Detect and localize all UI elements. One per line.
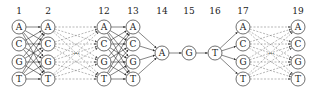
node-13-A: A: [126, 20, 140, 34]
edge: [138, 58, 156, 74]
ellipsis-marker: ⋯: [73, 49, 79, 56]
node-letter: A: [239, 22, 247, 32]
node-19-A: A: [291, 20, 305, 34]
node-letter: T: [240, 74, 246, 84]
node-letter: G: [294, 57, 301, 67]
column-label-15: 15: [183, 6, 195, 16]
node-letter: T: [16, 74, 22, 84]
node-1-C: C: [12, 37, 26, 51]
node-letter: C: [295, 39, 302, 49]
edge: [140, 46, 155, 51]
node-1-G: G: [12, 55, 26, 69]
node-2-G: G: [41, 55, 55, 69]
node-letter: A: [294, 22, 302, 32]
node-letter: T: [212, 48, 218, 58]
column-label-12: 12: [98, 6, 109, 16]
node-letter: A: [100, 22, 108, 32]
node-12-A: A: [97, 20, 111, 34]
node-letter: T: [101, 74, 107, 84]
node-17-G: G: [236, 55, 250, 69]
column-label-2: 2: [45, 6, 51, 16]
column-label-17: 17: [237, 6, 249, 16]
node-letter: G: [100, 57, 107, 67]
ellipsis-marker: ⋯: [268, 49, 274, 56]
column-label-14: 14: [156, 6, 168, 16]
node-letter: A: [44, 22, 52, 32]
node-2-C: C: [41, 37, 55, 51]
node-1-A: A: [12, 20, 26, 34]
node-19-G: G: [291, 55, 305, 69]
edge: [220, 32, 237, 48]
node-19-T: T: [291, 72, 305, 86]
edge: [140, 55, 155, 60]
node-15-G: G: [182, 46, 196, 60]
node-17-C: C: [236, 37, 250, 51]
node-letter: C: [45, 39, 52, 49]
node-17-A: A: [236, 20, 250, 34]
node-letter: T: [45, 74, 51, 84]
node-16-T: T: [208, 46, 222, 60]
node-letter: A: [129, 22, 137, 32]
node-letter: C: [130, 39, 137, 49]
node-letter: G: [239, 57, 246, 67]
node-letter: G: [15, 57, 22, 67]
node-letter: C: [240, 39, 247, 49]
node-letter: T: [130, 74, 136, 84]
node-14-A: A: [155, 46, 169, 60]
node-letter: A: [15, 22, 23, 32]
node-letter: A: [158, 48, 166, 58]
column-labels: 1212131415161719: [16, 6, 304, 16]
node-12-C: C: [97, 37, 111, 51]
node-13-G: G: [126, 55, 140, 69]
node-letter: T: [295, 74, 301, 84]
column-label-16: 16: [209, 6, 221, 16]
column-label-19: 19: [292, 6, 304, 16]
node-17-T: T: [236, 72, 250, 86]
node-12-T: T: [97, 72, 111, 86]
node-12-G: G: [97, 55, 111, 69]
edge: [222, 55, 236, 60]
column-label-1: 1: [16, 6, 22, 16]
node-letter: G: [185, 48, 192, 58]
node-2-A: A: [41, 20, 55, 34]
node-letter: C: [16, 39, 23, 49]
node-letter: C: [101, 39, 108, 49]
node-19-C: C: [291, 37, 305, 51]
sequence-graph-diagram: ⋯⋯ ACGTACGTACGTACGTAGTACGTACGT 121213141…: [0, 0, 319, 93]
node-letter: G: [44, 57, 51, 67]
edge: [222, 46, 236, 51]
nodes-layer: ACGTACGTACGTACGTAGTACGTACGT: [12, 20, 305, 86]
edge: [220, 58, 237, 74]
node-2-T: T: [41, 72, 55, 86]
node-1-T: T: [12, 72, 26, 86]
edge: [138, 32, 156, 48]
node-13-C: C: [126, 37, 140, 51]
node-letter: G: [129, 57, 136, 67]
column-label-13: 13: [127, 6, 139, 16]
node-13-T: T: [126, 72, 140, 86]
